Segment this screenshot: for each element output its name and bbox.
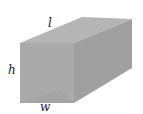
box-front-face [20, 43, 74, 103]
width-label: w [40, 101, 50, 113]
box-figure [0, 0, 143, 114]
length-label: l [48, 17, 52, 29]
height-label: h [8, 64, 16, 76]
